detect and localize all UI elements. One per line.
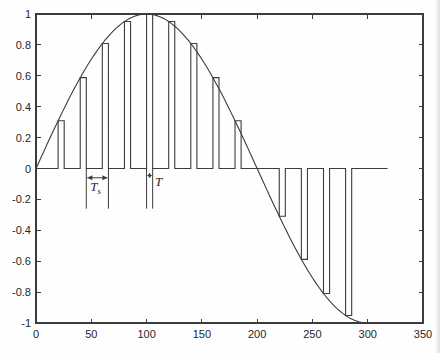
sampling-period-marker-label: Ts	[90, 179, 101, 196]
x-tick-label: 0	[33, 328, 39, 340]
sampling-period-marker-label-sub: s	[98, 186, 102, 196]
y-tick-label: 0.4	[16, 101, 31, 113]
plot-canvas: 05010015020025030035010.80.60.40.20-0.2-…	[0, 0, 440, 353]
y-tick-label: 0	[25, 163, 31, 175]
x-tick-label: 350	[414, 328, 432, 340]
y-tick-label: -1	[21, 317, 31, 329]
y-tick-label: -0.2	[12, 193, 31, 205]
pam-sampling-figure: 05010015020025030035010.80.60.40.20-0.2-…	[0, 0, 440, 353]
y-tick-label: 1	[25, 8, 31, 20]
y-tick-label: -0.4	[12, 224, 31, 236]
pulse-width-marker-label-main: T	[155, 174, 163, 189]
pulse-width-marker-arrowhead-right	[149, 173, 152, 178]
x-tick-label: 150	[193, 328, 211, 340]
x-tick-label: 100	[137, 328, 155, 340]
y-tick-label: 0.2	[16, 132, 31, 144]
sampling-period-marker-arrowhead-right	[102, 175, 107, 180]
pam-pulse-train	[36, 14, 388, 315]
y-tick-label: 0.8	[16, 39, 31, 51]
y-tick-label: -0.6	[12, 255, 31, 267]
y-tick-label: 0.6	[16, 70, 31, 82]
y-tick-label: -0.8	[12, 286, 31, 298]
x-tick-label: 200	[248, 328, 266, 340]
x-tick-label: 300	[359, 328, 377, 340]
x-tick-label: 250	[303, 328, 321, 340]
x-tick-label: 50	[85, 328, 97, 340]
pulse-width-marker-label: T	[155, 174, 163, 189]
